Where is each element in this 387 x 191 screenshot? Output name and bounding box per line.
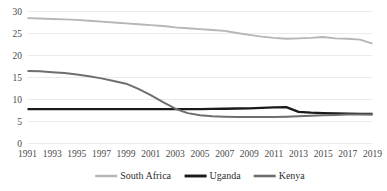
x-tick-label: 2001 — [141, 149, 160, 159]
series-line-uganda — [28, 107, 373, 114]
x-tick-label: 1993 — [43, 149, 62, 159]
x-tick-label: 1999 — [117, 149, 136, 159]
y-tick-label: 10 — [13, 95, 23, 105]
gridlines — [28, 12, 373, 144]
x-tick-label: 1997 — [92, 149, 111, 159]
x-tick-label: 2015 — [314, 149, 333, 159]
series-line-south-africa — [28, 18, 373, 44]
line-chart: 302520151050 199119931995199719992001200… — [0, 0, 387, 191]
chart-canvas: 302520151050 199119931995199719992001200… — [0, 0, 387, 191]
x-tick-label: 2019 — [363, 149, 382, 159]
x-tick-label: 2017 — [338, 149, 357, 159]
y-tick-label: 15 — [13, 73, 23, 83]
legend-label-uganda: Uganda — [210, 170, 242, 181]
legend-label-kenya: Kenya — [279, 170, 306, 181]
y-tick-label: 25 — [13, 29, 23, 39]
x-tick-label: 2011 — [265, 149, 284, 159]
chart-legend: South AfricaUgandaKenya — [95, 170, 305, 181]
x-tick-label: 2005 — [191, 149, 210, 159]
x-tick-label: 1995 — [67, 149, 86, 159]
data-series-group — [28, 18, 373, 117]
x-tick-label: 2009 — [240, 149, 259, 159]
x-tick-label: 1991 — [18, 149, 37, 159]
x-tick-label: 2013 — [289, 149, 308, 159]
y-tick-label: 30 — [13, 7, 23, 17]
x-tick-label: 2003 — [166, 149, 185, 159]
y-axis-tick-labels: 302520151050 — [13, 7, 23, 149]
y-tick-label: 0 — [17, 139, 22, 149]
x-tick-label: 2007 — [215, 149, 234, 159]
y-tick-label: 20 — [13, 51, 23, 61]
legend-label-south-africa: South Africa — [120, 170, 171, 181]
y-tick-label: 5 — [17, 117, 22, 127]
x-axis-tick-labels: 1991199319951997199920012003200520072009… — [18, 149, 382, 159]
